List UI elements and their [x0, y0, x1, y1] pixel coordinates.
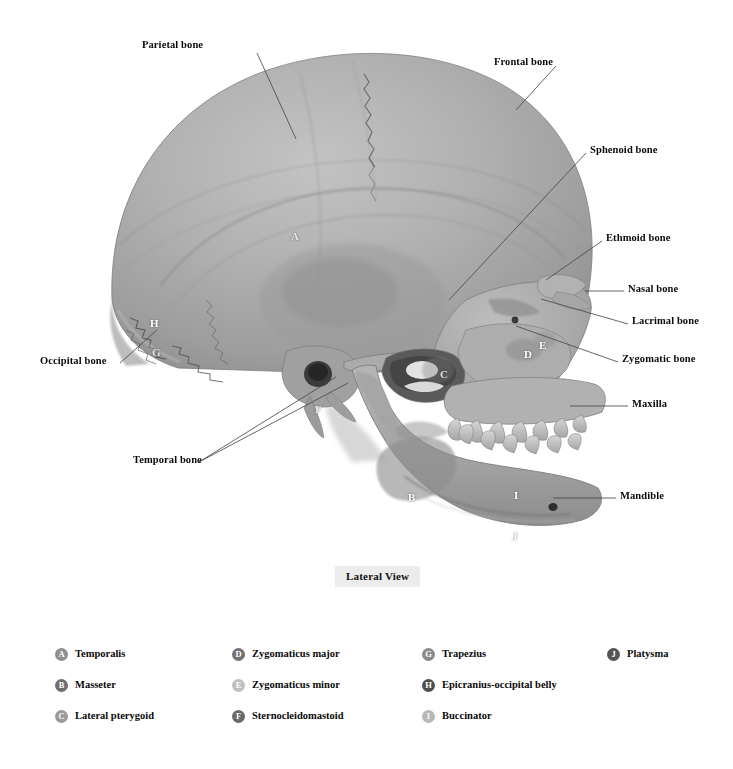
legend-label-a: Temporalis [75, 649, 125, 660]
legend-item[interactable]: A Temporalis [55, 640, 154, 668]
legend-badge-a: A [55, 648, 68, 661]
skull-drawing [0, 0, 733, 615]
legend-label-d: Zygomaticus major [252, 649, 340, 660]
bone-label-maxilla: Maxilla [632, 399, 667, 410]
legend-badge-e: E [232, 679, 245, 692]
leader-temporal-bone-1 [199, 383, 348, 462]
legend-badge-j: J [607, 648, 620, 661]
bone-label-occipital-bone: Occipital bone [40, 356, 106, 367]
legend-label-c: Lateral pterygoid [75, 711, 154, 722]
bone-label-parietal-bone: Parietal bone [142, 40, 203, 51]
bone-label-sphenoid-bone: Sphenoid bone [590, 145, 658, 156]
legend-badge-f: F [232, 710, 245, 723]
bone-label-zygomatic-bone: Zygomatic bone [622, 354, 695, 365]
legend-label-h: Epicranius-occipital belly [442, 680, 557, 691]
bone-label-frontal-bone: Frontal bone [494, 57, 553, 68]
legend-badge-g: G [422, 648, 435, 661]
legend-label-f: Sternocleidomastoid [252, 711, 344, 722]
bone-label-lacrimal-bone: Lacrimal bone [632, 316, 699, 327]
legend-column-2: D Zygomaticus major E Zygomaticus minor … [232, 640, 344, 733]
skull-lateral-figure: Parietal bone Frontal bone Sphenoid bone… [0, 0, 733, 769]
legend-label-b: Masseter [75, 680, 116, 691]
legend-badge-h: H [422, 679, 435, 692]
legend-column-1: A Temporalis B Masseter C Lateral pteryg… [55, 640, 154, 733]
legend-item[interactable]: G Trapezius [422, 640, 557, 668]
legend-badge-d: D [232, 648, 245, 661]
legend-column-4: J Platysma [607, 640, 668, 671]
legend-item[interactable]: I Buccinator [422, 702, 557, 730]
legend-item[interactable]: B Masseter [55, 671, 154, 699]
muscle-legend: A Temporalis B Masseter C Lateral pteryg… [0, 640, 733, 740]
skull-illustration: Parietal bone Frontal bone Sphenoid bone… [0, 0, 733, 615]
legend-label-i: Buccinator [442, 711, 492, 722]
bone-label-nasal-bone: Nasal bone [628, 284, 678, 295]
legend-label-j: Platysma [627, 649, 668, 660]
legend-item[interactable]: F Sternocleidomastoid [232, 702, 344, 730]
legend-item[interactable]: J Platysma [607, 640, 668, 668]
legend-badge-i: I [422, 710, 435, 723]
legend-badge-c: C [55, 710, 68, 723]
legend-badge-b: B [55, 679, 68, 692]
legend-item[interactable]: C Lateral pterygoid [55, 702, 154, 730]
bone-label-mandible: Mandible [620, 491, 664, 502]
legend-label-e: Zygomaticus minor [252, 680, 340, 691]
bone-label-ethmoid-bone: Ethmoid bone [606, 233, 671, 244]
bone-label-temporal-bone: Temporal bone [133, 455, 202, 466]
legend-label-g: Trapezius [442, 649, 486, 660]
legend-item[interactable]: E Zygomaticus minor [232, 671, 344, 699]
leader-frontal-bone [516, 66, 556, 110]
view-caption: Lateral View [335, 566, 420, 587]
legend-column-3: G Trapezius H Epicranius-occipital belly… [422, 640, 557, 733]
legend-item[interactable]: H Epicranius-occipital belly [422, 671, 557, 699]
legend-item[interactable]: D Zygomaticus major [232, 640, 344, 668]
